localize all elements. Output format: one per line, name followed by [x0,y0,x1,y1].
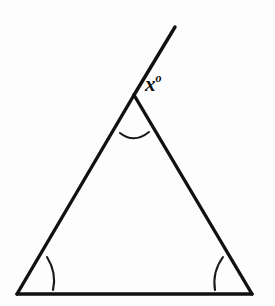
angle-variable: x [145,72,156,96]
triangle-right-side [134,95,252,294]
geometry-figure: xo [0,0,275,306]
triangle-diagram-svg [0,0,275,306]
triangle-left-side [17,95,134,294]
exterior-angle-label: xo [145,74,162,95]
degree-symbol: o [156,71,162,85]
bottom-right-angle-arc [214,257,223,290]
apex-interior-angle-arc [120,132,149,138]
bottom-left-angle-arc [47,257,54,290]
